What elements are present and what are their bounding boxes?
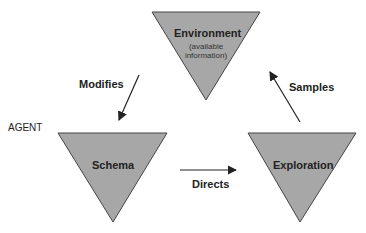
agent-label: AGENT bbox=[8, 122, 42, 133]
environment-sub2: information) bbox=[181, 51, 231, 60]
environment-sub1: (available bbox=[181, 42, 231, 51]
directs-label: Directs bbox=[192, 178, 229, 190]
samples-arrow bbox=[270, 72, 300, 122]
environment-label: Environment bbox=[174, 27, 241, 39]
exploration-label: Exploration bbox=[273, 159, 334, 171]
modifies-label: Modifies bbox=[79, 78, 124, 90]
samples-label: Samples bbox=[289, 81, 334, 93]
exploration-triangle bbox=[248, 133, 356, 222]
schema-triangle bbox=[58, 133, 167, 222]
schema-label: Schema bbox=[92, 159, 134, 171]
